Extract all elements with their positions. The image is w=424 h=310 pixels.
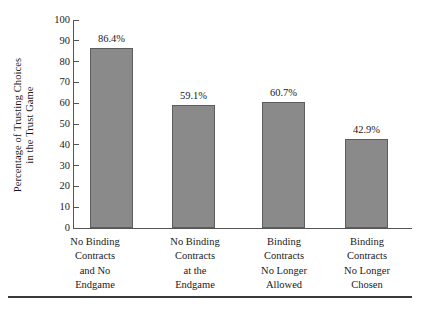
y-tick-label-60: 60 — [36, 97, 70, 109]
bar-no-binding-contracts-at-the-endgame[interactable] — [172, 105, 215, 228]
y-tick-100: 100 — [30, 14, 79, 26]
cat4-line1: Binding — [324, 235, 410, 249]
y-tick-mark — [74, 228, 79, 229]
y-tick-label-70: 70 — [36, 76, 70, 88]
y-tick-label-100: 100 — [36, 14, 70, 26]
footer-divider-rule — [8, 296, 412, 298]
bar-value-label-4: 42.9% — [335, 124, 398, 135]
bar-binding-contracts-no-longer-allowed[interactable] — [262, 102, 305, 228]
bar-no-binding-contracts-and-no-endgame[interactable] — [90, 48, 133, 228]
y-tick-mark — [74, 40, 79, 41]
y-tick-50: 50 — [30, 118, 79, 130]
cat4-line2: Contracts — [324, 249, 410, 263]
y-tick-30: 30 — [30, 160, 79, 172]
y-tick-80: 80 — [30, 56, 79, 68]
y-tick-label-10: 10 — [36, 201, 70, 213]
x-tick-label-no-binding-contracts-at-the-endgame: No Binding Contracts at the Endgame — [152, 235, 238, 293]
x-tick-label-binding-contracts-no-longer-allowed: Binding Contracts No Longer Allowed — [241, 235, 327, 293]
bar-value-label-3: 60.7% — [252, 87, 315, 98]
y-tick-label-20: 20 — [36, 180, 70, 192]
y-tick-mark — [74, 103, 79, 104]
plot-area: 100 90 80 70 60 50 40 30 20 10 0 86.4% 5… — [73, 20, 412, 229]
y-axis-title-line-1: Percentage of Trusting Choices — [12, 58, 24, 193]
y-tick-label-80: 80 — [36, 56, 70, 68]
y-tick-mark — [74, 124, 79, 125]
y-tick-60: 60 — [30, 97, 79, 109]
y-tick-label-30: 30 — [36, 160, 70, 172]
y-tick-0: 0 — [30, 222, 79, 234]
y-tick-mark — [74, 20, 79, 21]
bar-binding-contracts-no-longer-chosen[interactable] — [345, 139, 388, 228]
cat1-line1: No Binding — [52, 235, 138, 249]
y-tick-mark — [74, 165, 79, 166]
y-tick-mark — [74, 207, 79, 208]
cat2-line3: at the — [152, 264, 238, 278]
cat3-line1: Binding — [241, 235, 327, 249]
cat2-line4: Endgame — [152, 278, 238, 292]
y-tick-70: 70 — [30, 76, 79, 88]
cat2-line1: No Binding — [152, 235, 238, 249]
y-tick-mark — [74, 82, 79, 83]
y-tick-label-0: 0 — [36, 222, 70, 234]
bar-chart-figure: Percentage of Trusting Choices in the Tr… — [0, 0, 424, 310]
cat1-line4: Endgame — [52, 278, 138, 292]
cat3-line2: Contracts — [241, 249, 327, 263]
y-tick-40: 40 — [30, 139, 79, 151]
y-tick-label-50: 50 — [36, 118, 70, 130]
cat4-line4: Chosen — [324, 278, 410, 292]
bar-value-label-1: 86.4% — [80, 33, 143, 44]
cat3-line4: Allowed — [241, 278, 327, 292]
cat1-line2: Contracts — [52, 249, 138, 263]
y-tick-90: 90 — [30, 35, 79, 47]
x-tick-label-binding-contracts-no-longer-chosen: Binding Contracts No Longer Chosen — [324, 235, 410, 293]
x-axis-line — [73, 228, 412, 229]
y-tick-mark — [74, 61, 79, 62]
x-tick-label-no-binding-contracts-and-no-endgame: No Binding Contracts and No Endgame — [52, 235, 138, 293]
cat2-line2: Contracts — [152, 249, 238, 263]
y-tick-mark — [74, 186, 79, 187]
bar-value-label-2: 59.1% — [162, 90, 225, 101]
cat1-line3: and No — [52, 264, 138, 278]
y-tick-label-40: 40 — [36, 139, 70, 151]
cat3-line3: No Longer — [241, 264, 327, 278]
y-tick-label-90: 90 — [36, 35, 70, 47]
y-tick-20: 20 — [30, 180, 79, 192]
y-tick-mark — [74, 144, 79, 145]
cat4-line3: No Longer — [324, 264, 410, 278]
y-tick-10: 10 — [30, 201, 79, 213]
